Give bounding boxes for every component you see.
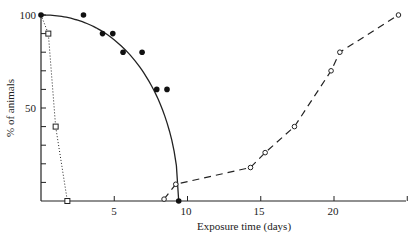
open-circle-marker xyxy=(173,182,178,187)
filled-circle-marker xyxy=(38,12,44,18)
open-circle-marker xyxy=(162,197,167,202)
filled-circle-marker xyxy=(81,12,87,18)
y-tick-label-100: 100 xyxy=(20,9,37,21)
x-tick-label-5: 5 xyxy=(111,205,117,217)
open-circle-marker xyxy=(396,13,401,18)
filled-circle-marker xyxy=(139,49,145,55)
curves xyxy=(41,15,398,201)
filled-circle-marker xyxy=(176,198,182,204)
filled-circle-marker xyxy=(100,31,106,37)
x-ticks xyxy=(114,196,407,201)
open-circle-marker xyxy=(248,165,253,170)
y-tick-label-50: 50 xyxy=(25,102,37,114)
x-tick-label-15: 15 xyxy=(254,205,266,217)
chart: 100 50 5 10 15 20 Exposure time (days) %… xyxy=(0,0,413,234)
filled-circle-marker xyxy=(164,87,170,93)
x-axis-title: Exposure time (days) xyxy=(197,220,291,233)
open-circle-marker xyxy=(329,69,334,74)
axes xyxy=(41,15,406,201)
filled-circle-marker xyxy=(120,49,126,55)
open-circle-marker xyxy=(263,150,268,155)
filled-circle-marker xyxy=(110,31,116,37)
y-axis-title: % of animals xyxy=(4,79,16,137)
open-circle-marker xyxy=(338,50,343,55)
x-tick-label-10: 10 xyxy=(181,205,193,217)
open-square-marker xyxy=(53,124,58,129)
open-square-marker xyxy=(65,199,70,204)
dashed-curve xyxy=(164,15,398,199)
y-ticks xyxy=(41,15,46,182)
filled-circle-marker xyxy=(154,87,160,93)
open-square-marker xyxy=(46,31,51,36)
solid-curve xyxy=(41,15,179,201)
open-circle-marker xyxy=(292,124,297,129)
x-tick-label-20: 20 xyxy=(328,205,340,217)
